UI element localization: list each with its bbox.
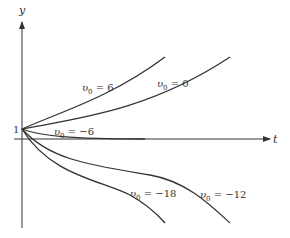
solution-curves-diagram: y t 1 υ0 = 6 υ0 = 0 υ0 = −6 υ0 = −18 υ0 … xyxy=(0,0,290,238)
curve-v0-6 xyxy=(22,57,165,129)
curve-label-v0-6: υ0 = 6 xyxy=(82,82,114,96)
y-tick-label-1: 1 xyxy=(13,124,19,135)
curve-v0-minus18 xyxy=(22,129,165,223)
t-axis-label: t xyxy=(273,133,278,146)
curve-label-v0-minus18: υ0 = −18 xyxy=(130,188,176,202)
y-axis-label: y xyxy=(18,4,26,17)
curve-v0-0 xyxy=(22,57,230,129)
curve-label-v0-minus12: υ0 = −12 xyxy=(200,189,246,203)
curve-label-v0-0: υ0 = 0 xyxy=(157,78,189,92)
curve-v0-minus12 xyxy=(22,129,230,223)
